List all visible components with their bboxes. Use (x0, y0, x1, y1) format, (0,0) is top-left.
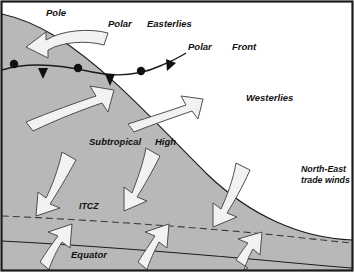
label-polar-easterlies-polar: Polar (108, 18, 133, 29)
label-polar-easterlies-easterlies: Easterlies (147, 18, 192, 29)
label-trade-winds-line1: North-East (301, 164, 347, 174)
label-westerlies: Westerlies (246, 92, 293, 103)
label-subtropical: Subtropical (89, 136, 142, 147)
label-equator: Equator (71, 249, 108, 260)
label-high: High (155, 136, 176, 147)
label-polar-front-polar: Polar (188, 41, 213, 52)
label-pole: Pole (46, 7, 67, 18)
circulation-diagram: Pole Polar Easterlies Polar Front Wester… (0, 0, 354, 272)
label-trade-winds-line2: trade winds (301, 175, 350, 185)
label-itcz: ITCZ (79, 201, 99, 211)
label-polar-front-front: Front (232, 41, 257, 52)
